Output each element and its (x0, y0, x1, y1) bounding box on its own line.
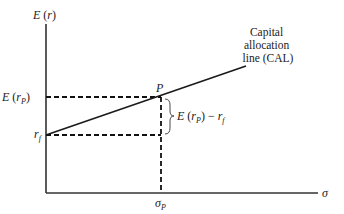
y-axis-label: E (r) (32, 8, 56, 22)
cal-label: Capital allocation line (CAL) (243, 26, 294, 65)
point-p-label: P (155, 81, 164, 95)
cal-diagram: E (r) E (rP) rf P E (rP) − rf Capital al… (0, 0, 344, 214)
brace-icon (165, 99, 174, 134)
x-axis-label: σ (322, 186, 329, 200)
cal-line (46, 66, 246, 135)
rf-tick-label: rf (34, 127, 43, 143)
erp-tick-label: E (rP) (1, 90, 30, 106)
brace-label: E (rP) − rf (176, 109, 226, 125)
sigma-p-tick-label: σP (155, 196, 166, 212)
